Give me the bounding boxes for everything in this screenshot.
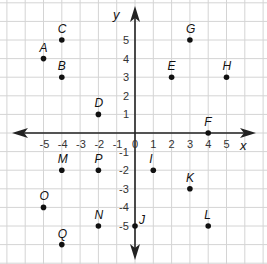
y-tick-label: 2 [123, 90, 129, 102]
x-tick-label: 5 [224, 138, 230, 150]
x-axis-label: x [239, 138, 247, 153]
point-label: O [40, 189, 49, 203]
x-tick-label: -4 [58, 138, 68, 150]
point-dot [224, 74, 230, 80]
x-tick-labels: -5-4-3-2-1012345 [40, 138, 230, 150]
y-tick-label: 4 [123, 53, 129, 65]
y-tick-label: -4 [119, 201, 129, 213]
y-tick-label: 5 [123, 34, 129, 46]
y-tick-label: 3 [123, 71, 129, 83]
point-dot [41, 56, 47, 62]
point-label: F [204, 115, 212, 129]
x-tick-label: 3 [187, 138, 193, 150]
point-dot [96, 167, 102, 173]
point-label: G [186, 22, 195, 36]
point-label: N [94, 208, 103, 222]
point-label: I [149, 152, 153, 166]
point-label: Q [58, 227, 67, 241]
coordinate-plane: y x -5-4-3-2-1012345 54321-1-2-3-4-5 ABC… [0, 0, 267, 264]
x-tick-label: -3 [76, 138, 86, 150]
point-dot [187, 186, 193, 192]
point-dot [205, 223, 211, 229]
point-label: K [186, 171, 195, 185]
point-label: J [138, 213, 146, 227]
point-dot [59, 167, 65, 173]
x-tick-label: 2 [169, 138, 175, 150]
point-label: A [39, 41, 48, 55]
point-label: H [223, 59, 232, 73]
y-axis-label: y [112, 7, 121, 22]
y-tick-label: -1 [119, 146, 129, 158]
y-tick-label: -5 [119, 220, 129, 232]
point-dot [151, 167, 157, 173]
point-dot [96, 223, 102, 229]
x-tick-label: 1 [150, 138, 156, 150]
y-tick-label: -2 [119, 164, 129, 176]
point-dot [59, 74, 65, 80]
x-axis [12, 128, 256, 138]
point-label: C [58, 22, 67, 36]
x-tick-label: -5 [40, 138, 50, 150]
y-tick-label: -3 [119, 183, 129, 195]
point-label: D [94, 96, 103, 110]
point-dot [59, 37, 65, 43]
point-label: P [94, 152, 102, 166]
point-dot [96, 112, 102, 118]
point-dot [132, 223, 138, 229]
point-label: M [58, 152, 68, 166]
x-tick-label: 0 [132, 138, 138, 150]
y-tick-label: 1 [123, 108, 129, 120]
point-label: L [204, 208, 211, 222]
point-dot [169, 74, 175, 80]
point-label: E [168, 59, 177, 73]
point-dot [59, 242, 65, 248]
x-tick-label: 4 [205, 138, 211, 150]
point-dot [205, 130, 211, 136]
x-tick-label: -2 [94, 138, 104, 150]
point-dot [187, 37, 193, 43]
point-label: B [58, 59, 66, 73]
point-dot [41, 205, 47, 211]
